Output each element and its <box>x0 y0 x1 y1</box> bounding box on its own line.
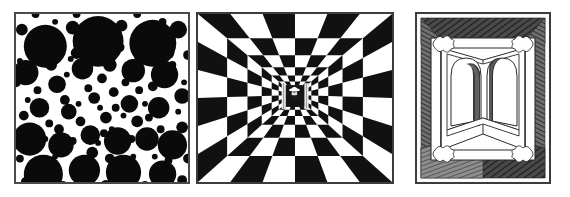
packed-disc <box>17 58 23 64</box>
tunnel-figure-icon <box>289 87 300 107</box>
packed-disc <box>29 52 39 62</box>
packed-disc <box>152 154 158 160</box>
packed-disc <box>121 113 127 119</box>
packed-disc <box>127 135 135 143</box>
packed-disc <box>60 95 70 105</box>
packed-disc <box>76 117 86 127</box>
packed-disc <box>100 112 112 124</box>
packed-disc <box>19 111 29 121</box>
packed-disc <box>97 74 107 84</box>
packed-disc <box>34 86 42 94</box>
packed-disc <box>45 59 57 71</box>
packed-disc <box>54 124 64 134</box>
packed-disc <box>69 137 77 145</box>
twin-arches-artwork <box>417 14 549 182</box>
packed-disc <box>105 154 115 164</box>
artwork-gallery: Circle Packing Checkerboard Tunnel <box>0 0 570 197</box>
packed-disc <box>158 130 187 159</box>
packed-disc <box>52 19 58 25</box>
packed-disc <box>168 61 176 69</box>
packed-disc <box>169 21 187 39</box>
twin-arches-panel[interactable]: Twin Arches <box>415 12 551 184</box>
packed-disc <box>181 79 187 85</box>
fleur-de-lis-icon-top-left <box>433 36 454 53</box>
packed-disc <box>16 24 28 36</box>
packed-disc <box>163 47 175 59</box>
fleur-de-lis-icon-bottom-right <box>512 146 533 163</box>
packed-disc <box>122 78 130 86</box>
packed-disc <box>165 157 173 165</box>
packed-disc <box>176 121 188 133</box>
packed-disc <box>88 92 100 104</box>
packed-disc <box>84 84 92 92</box>
packed-disc <box>116 20 128 32</box>
packed-disc <box>105 19 111 25</box>
packed-disc <box>148 81 158 91</box>
packed-disc <box>135 127 158 150</box>
packed-disc <box>142 101 148 107</box>
packed-disc <box>134 50 148 64</box>
packed-disc <box>100 129 108 137</box>
packed-disc <box>175 109 181 115</box>
checkerboard-tunnel-panel[interactable]: Checkerboard Tunnel <box>196 12 394 184</box>
packed-disc <box>33 148 39 154</box>
packed-disc <box>95 140 101 146</box>
packed-disc <box>97 105 103 111</box>
packed-disc <box>64 72 70 78</box>
packed-disc <box>86 147 98 159</box>
packed-disc <box>109 126 115 132</box>
circle-packing-artwork <box>16 14 188 182</box>
packed-disc <box>131 116 143 128</box>
packed-disc <box>145 114 153 122</box>
packed-disc <box>61 104 77 120</box>
packed-disc <box>45 119 53 127</box>
packed-disc <box>66 21 80 35</box>
packed-disc <box>103 58 117 72</box>
packed-disc <box>42 136 48 142</box>
packed-disc <box>112 104 120 112</box>
packed-disc <box>76 101 82 107</box>
packed-disc <box>115 42 125 52</box>
packed-disc <box>48 132 73 157</box>
packed-disc <box>121 95 139 113</box>
packed-disc <box>130 154 136 160</box>
fleur-de-lis-icon-top-right <box>512 36 533 53</box>
packed-disc <box>159 18 167 26</box>
packed-disc <box>48 76 66 94</box>
packed-disc <box>104 127 131 154</box>
packed-disc <box>52 154 58 160</box>
packed-disc <box>157 125 165 133</box>
packed-disc <box>109 87 119 97</box>
packed-disc <box>25 97 31 103</box>
packed-disc <box>72 58 94 79</box>
packed-disc <box>16 155 24 163</box>
packed-disc <box>30 98 50 118</box>
arch-right <box>487 58 517 126</box>
arch-left <box>451 58 481 126</box>
circle-packing-panel[interactable]: Circle Packing <box>14 12 190 184</box>
fleur-de-lis-icon-bottom-left <box>433 146 454 163</box>
packed-disc <box>68 56 74 62</box>
packed-disc <box>135 86 143 94</box>
checkerboard-tunnel-artwork <box>198 14 392 182</box>
